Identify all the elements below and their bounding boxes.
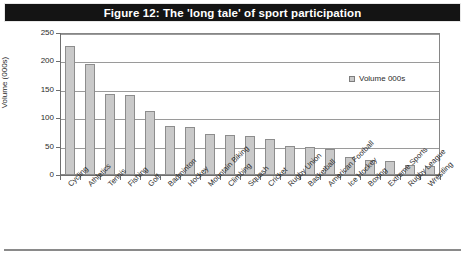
page-title: Figure 12: The 'long tale' of sport part… bbox=[104, 7, 362, 19]
y-axis-title: Volume (000s) bbox=[0, 57, 9, 109]
figure-title-banner: Figure 12: The 'long tale' of sport part… bbox=[4, 3, 461, 22]
figure-container: Figure 12: The 'long tale' of sport part… bbox=[0, 0, 465, 257]
y-axis-tick-label: 250 bbox=[0, 28, 54, 37]
bar bbox=[65, 46, 75, 175]
bar bbox=[85, 64, 95, 175]
legend-swatch-icon bbox=[349, 76, 355, 82]
bottom-divider bbox=[4, 249, 461, 251]
bar-series bbox=[60, 33, 440, 175]
bar bbox=[145, 111, 155, 175]
y-axis-tick-label: 50 bbox=[0, 142, 54, 151]
bar bbox=[125, 95, 135, 175]
x-axis-tick bbox=[60, 176, 61, 180]
legend-label: Volume 000s bbox=[359, 74, 405, 83]
y-axis-tick-label: 0 bbox=[0, 170, 54, 179]
chart-legend: Volume 000s bbox=[349, 74, 405, 83]
y-axis-tick-label: 100 bbox=[0, 113, 54, 122]
bar bbox=[165, 126, 175, 175]
